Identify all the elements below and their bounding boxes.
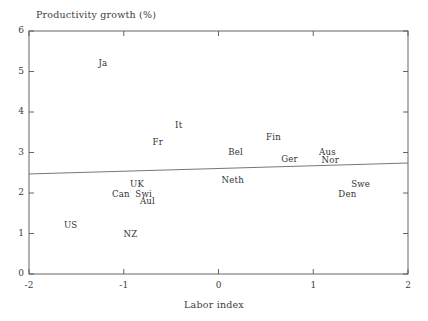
- y-tick-label: 4: [10, 106, 24, 116]
- data-point-label: Ger: [281, 154, 298, 164]
- data-point-label: Neth: [222, 175, 244, 185]
- y-tick-label: 2: [10, 187, 24, 197]
- x-tick-label: 0: [208, 280, 230, 290]
- data-point-label: Can: [112, 189, 130, 199]
- x-tick-label: 1: [302, 280, 324, 290]
- data-point-label: Fin: [266, 132, 281, 142]
- y-tick-label: 6: [10, 25, 24, 35]
- data-point-label: Bel: [228, 147, 243, 157]
- plot-frame: [29, 31, 408, 274]
- y-tick-label: 0: [10, 268, 24, 278]
- data-point-label: Swe: [351, 179, 370, 189]
- regression-line: [29, 163, 408, 174]
- y-tick-label: 3: [10, 147, 24, 157]
- axis-ticks: [29, 31, 408, 274]
- chart-figure: Productivity growth (%) Labor index -2-1…: [0, 0, 428, 321]
- data-point-label: Aul: [140, 196, 155, 206]
- data-point-label: Den: [338, 189, 356, 199]
- data-point-label: Fr: [153, 137, 163, 147]
- data-point-label: NZ: [123, 229, 137, 239]
- plot-canvas: [0, 0, 428, 321]
- x-axis-title: Labor index: [0, 299, 428, 310]
- x-tick-label: -1: [113, 280, 135, 290]
- y-axis-title: Productivity growth (%): [36, 9, 156, 20]
- x-tick-label: 2: [397, 280, 419, 290]
- y-tick-label: 5: [10, 66, 24, 76]
- x-tick-label: -2: [18, 280, 40, 290]
- data-point-label: US: [64, 220, 78, 230]
- data-point-label: UK: [130, 179, 144, 189]
- y-tick-label: 1: [10, 228, 24, 238]
- data-point-label: Ja: [98, 58, 107, 68]
- data-point-label: It: [175, 120, 182, 130]
- data-point-label: Nor: [322, 155, 339, 165]
